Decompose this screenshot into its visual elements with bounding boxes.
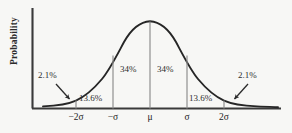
x-tick-label-plus-2-sigma: 2σ xyxy=(204,112,244,122)
label-right-tail-percent: 2.1% xyxy=(238,70,257,80)
x-tick-label-minus-1-sigma: −σ xyxy=(93,112,133,122)
label-left-center-percent: 34% xyxy=(120,64,137,74)
x-tick-label-minus-2-sigma: −2σ xyxy=(56,112,96,122)
x-tick-label-plus-1-sigma: σ xyxy=(167,112,207,122)
left-tail-arrow-icon xyxy=(56,84,70,99)
x-tick-label-mu: μ xyxy=(130,112,170,122)
normal-distribution-figure: Probability 2.1% 13.6% 34% 34% 13.6% 2.1… xyxy=(0,0,292,133)
label-left-tail-percent: 2.1% xyxy=(38,70,57,80)
y-axis-label: Probability xyxy=(9,1,19,81)
right-tail-arrow-icon xyxy=(235,84,249,99)
label-right-center-percent: 34% xyxy=(157,64,174,74)
label-right-mid-percent: 13.6% xyxy=(189,93,212,103)
label-left-mid-percent: 13.6% xyxy=(79,93,102,103)
